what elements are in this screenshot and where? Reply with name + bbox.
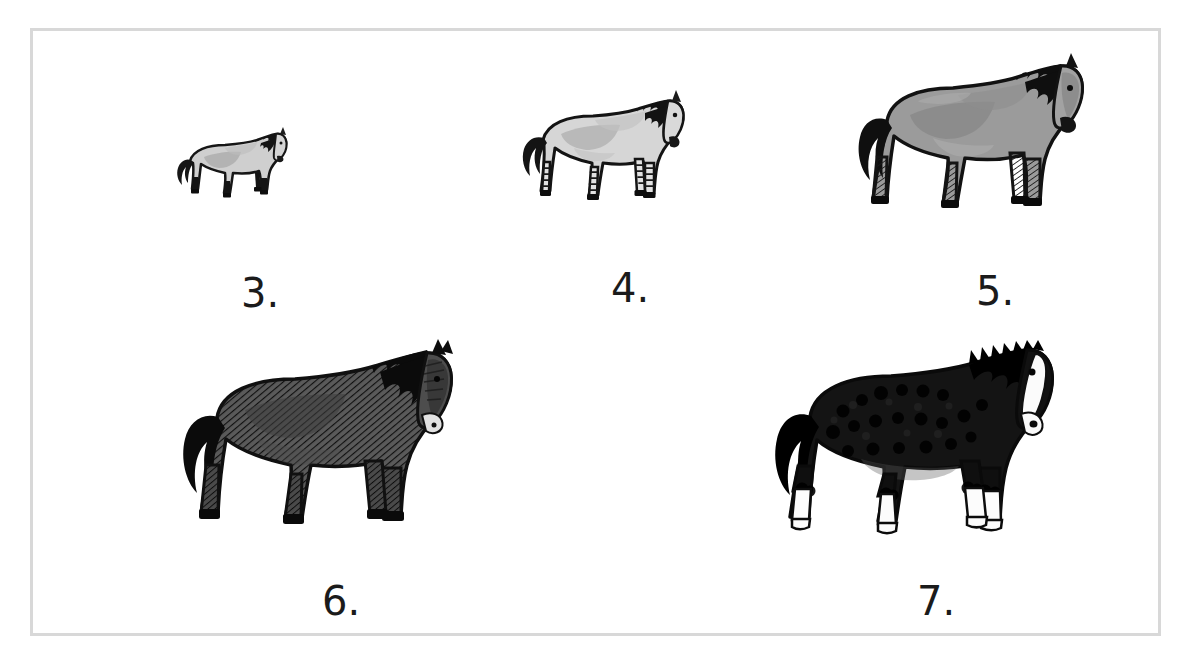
horse-chart-page: 3. — [0, 0, 1187, 665]
figure-horse-7: 7. — [773, 341, 1103, 561]
figure-horse-6: 6. — [181, 343, 501, 558]
illustration-frame: 3. — [30, 28, 1161, 636]
horse-7-illustration — [773, 341, 1069, 551]
figure-horse-5: 5. — [858, 53, 1128, 243]
horse-3-illustration — [173, 125, 308, 217]
figure-caption-4: 4. — [611, 268, 649, 308]
figure-caption-6: 6. — [322, 581, 360, 621]
horse-4-illustration — [520, 88, 705, 223]
figure-caption-5: 5. — [976, 271, 1014, 311]
figure-horse-3: 3. — [173, 125, 333, 225]
figure-caption-3: 3. — [241, 273, 279, 313]
figure-caption-7: 7. — [917, 581, 955, 621]
horse-6-illustration — [181, 343, 471, 548]
figure-horse-4: 4. — [520, 88, 735, 233]
horse-5-illustration — [858, 53, 1098, 233]
